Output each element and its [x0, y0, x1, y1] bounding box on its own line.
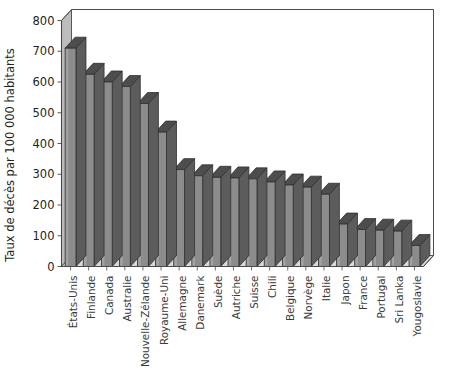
y-axis-tick-label: 100: [33, 229, 55, 243]
bar-side-face: [148, 93, 158, 267]
x-axis-category-label: Belgique: [284, 276, 296, 321]
bar-side-face: [166, 121, 176, 266]
bar-side-face: [112, 71, 122, 267]
bar-side-face: [311, 176, 321, 266]
bar-side-face: [257, 168, 267, 267]
x-axis-category-label: France: [357, 276, 369, 311]
x-axis-category-label: Suisse: [248, 276, 260, 309]
bar-side-face: [76, 37, 86, 266]
bar-side-face: [94, 63, 104, 266]
y-axis-tick-label: 0: [47, 260, 54, 274]
x-axis-category-label: Suède: [212, 276, 224, 309]
y-axis-tick-label: 600: [33, 75, 55, 89]
x-axis-category-label: Autriche: [230, 276, 242, 320]
bar-series: [65, 37, 430, 266]
bar-side-face: [293, 174, 303, 266]
x-axis-category-label: Nouvelle-Zélande: [139, 276, 151, 368]
y-axis-tick-label: 200: [33, 198, 55, 212]
x-axis-category-label: Sri Lanka: [393, 276, 405, 324]
chart-canvas: 0100200300400500600700800 Taux de décès …: [0, 0, 453, 373]
bar-highlight: [66, 49, 68, 266]
y-axis-tick-label: 700: [33, 44, 55, 58]
x-axis-category-label: Norvège: [302, 276, 314, 320]
y-axis: 0100200300400500600700800: [33, 14, 62, 274]
x-axis-category-label: Italie: [320, 276, 332, 302]
bar-side-face: [239, 167, 249, 267]
x-axis-category-label: Allemagne: [176, 276, 188, 331]
bar-side-face: [221, 166, 231, 266]
bar-side-face: [203, 165, 213, 267]
y-axis-tick-label: 500: [33, 106, 55, 120]
bar-chart-figure: 0100200300400500600700800 Taux de décès …: [0, 0, 453, 373]
x-axis-category-label: Portugal: [375, 276, 387, 319]
x-axis-category-label: Royaume-Uni: [158, 276, 170, 346]
bar-side-face: [185, 159, 195, 267]
x-axis-category-label: Australie: [121, 276, 133, 322]
bar-side-face: [130, 76, 140, 267]
bar-column: [65, 37, 86, 266]
y-axis-tick-label: 800: [33, 14, 55, 28]
y-axis-title: Taux de décès par 100 000 habitants: [3, 48, 17, 263]
x-axis-category-label: Canada: [103, 276, 115, 316]
x-axis-category-label: Chili: [266, 276, 278, 299]
bar-side-face: [275, 171, 285, 267]
x-axis-category-label: Yougoslavie: [411, 276, 423, 338]
x-axis-category-label: Finlande: [85, 276, 97, 320]
y-axis-tick-label: 300: [33, 167, 55, 181]
x-axis-category-labels: États-UnisFinlandeCanadaAustralieNouvell…: [67, 267, 423, 368]
x-axis-category-label: Danemark: [194, 276, 206, 330]
bar-side-face: [329, 183, 339, 266]
x-axis-category-label: États-Unis: [67, 276, 79, 329]
y-axis-tick-label: 400: [33, 137, 55, 151]
y-axis-title-text: Taux de décès par 100 000 habitants: [3, 48, 17, 263]
x-axis-category-label: Japon: [339, 276, 351, 306]
